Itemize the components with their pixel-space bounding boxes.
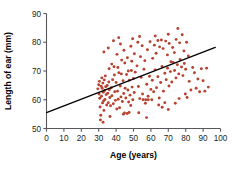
scatter-point	[104, 98, 107, 101]
scatter-point	[181, 33, 184, 36]
scatter-point	[162, 90, 165, 93]
scatter-point	[156, 75, 159, 78]
y-tick-label: 70	[32, 67, 42, 76]
scatter-point	[115, 81, 118, 84]
scatter-point	[106, 84, 109, 87]
scatter-point	[136, 41, 139, 44]
scatter-point	[101, 82, 104, 85]
scatter-point	[104, 74, 107, 77]
y-tick-label: 60	[32, 96, 42, 105]
x-tick-label: 70	[164, 134, 174, 143]
scatter-point	[107, 101, 110, 104]
scatter-point	[126, 56, 129, 59]
scatter-point	[153, 44, 156, 47]
scatter-point	[120, 59, 123, 62]
scatter-point	[129, 94, 132, 97]
scatter-point	[122, 113, 125, 116]
scatter-point	[155, 86, 158, 89]
scatter-point	[117, 36, 120, 39]
scatter-point	[178, 97, 181, 100]
scatter-point	[137, 111, 140, 114]
scatter-point	[122, 92, 125, 95]
scatter-point	[116, 66, 119, 69]
scatter-point	[183, 49, 186, 52]
scatter-point	[109, 104, 112, 107]
x-tick-label: 20	[77, 134, 87, 143]
scatter-point	[96, 87, 99, 90]
scatter-point	[207, 86, 210, 89]
scatter-point	[151, 79, 154, 82]
scatter-point	[170, 80, 173, 83]
scatter-point	[131, 86, 134, 89]
scatter-point	[127, 101, 130, 104]
scatter-point	[176, 27, 179, 30]
scatter-point	[130, 69, 133, 72]
scatter-point	[141, 44, 144, 47]
scatter-point	[203, 90, 206, 93]
scatter-point	[202, 79, 205, 82]
scatter-point	[99, 105, 102, 108]
x-tick-label: 0	[44, 134, 49, 143]
scatter-point	[171, 46, 174, 49]
x-tick-label: 80	[181, 134, 191, 143]
scatter-point	[184, 68, 187, 71]
scatter-point	[177, 72, 180, 75]
scatter-point	[125, 73, 128, 76]
scatter-point	[101, 87, 104, 90]
scatter-point	[138, 35, 141, 38]
scatter-point	[141, 93, 144, 96]
scatter-point	[107, 47, 110, 50]
scatter-point	[189, 89, 192, 92]
scatter-point	[180, 66, 183, 69]
scatter-point	[110, 63, 113, 66]
trendline	[47, 47, 216, 112]
scatter-point	[145, 83, 148, 86]
scatter-point	[163, 101, 166, 104]
scatter-point	[123, 62, 126, 65]
scatter-point	[102, 109, 105, 112]
scatter-point	[151, 57, 154, 60]
y-axis-title: Length of ear (mm)	[3, 32, 13, 110]
scatter-point	[122, 79, 125, 82]
scatter-point	[165, 78, 168, 81]
scatter-point	[112, 102, 115, 105]
scatter-point	[152, 90, 155, 93]
scatter-point	[167, 108, 170, 111]
scatter-point	[174, 102, 177, 105]
scatter-point	[144, 102, 147, 105]
scatter-point	[186, 96, 189, 99]
scatter-point	[173, 51, 176, 54]
scatter-point	[130, 60, 133, 63]
scatter-point	[158, 45, 161, 48]
scatter-point	[108, 67, 111, 70]
scatter-point	[173, 69, 176, 72]
scatter-point	[114, 99, 117, 102]
scatter-point	[97, 83, 100, 86]
scatter-point	[198, 90, 201, 93]
scatter-point	[149, 88, 152, 91]
scatter-point	[124, 87, 127, 90]
scatter-point	[158, 97, 161, 100]
scatter-point	[113, 74, 116, 77]
x-tick-label: 100	[214, 134, 228, 143]
scatter-point	[128, 111, 131, 114]
scatter-point	[183, 62, 186, 65]
scatter-point	[181, 74, 184, 77]
scatter-point	[118, 106, 121, 109]
scatter-point	[138, 97, 141, 100]
scatter-point	[163, 72, 166, 75]
scatter-point	[131, 37, 134, 40]
scatter-point	[176, 63, 179, 66]
scatter-point	[196, 78, 199, 81]
trendline-path	[47, 47, 216, 112]
axes: 50607080900102030405060708090100	[32, 10, 228, 144]
scatter-point	[116, 90, 119, 93]
scatter-point	[107, 80, 110, 83]
scatter-point	[167, 33, 170, 36]
scatter-point	[129, 104, 132, 107]
x-tick-label: 60	[146, 134, 156, 143]
scatter-point	[150, 98, 153, 101]
scatter-chart: 50607080900102030405060708090100 Age (ye…	[0, 0, 232, 171]
scatter-point	[144, 98, 147, 101]
scatter-point	[149, 40, 152, 43]
